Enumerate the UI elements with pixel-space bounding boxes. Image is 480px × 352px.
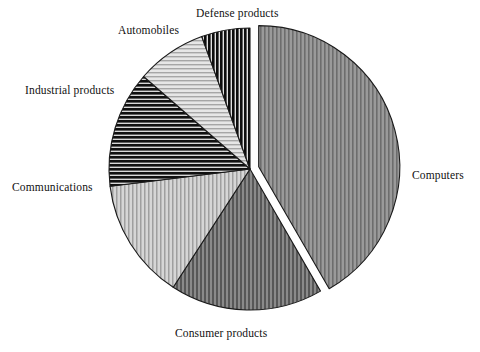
pie-label-defense-products: Defense products xyxy=(196,8,279,20)
pie-slices-group xyxy=(109,26,400,310)
pie-chart-canvas xyxy=(0,0,480,352)
pie-label-computers: Computers xyxy=(412,170,464,182)
pie-chart-figure: Defense products Automobiles Industrial … xyxy=(0,0,480,352)
pie-label-automobiles: Automobiles xyxy=(118,25,179,37)
pie-label-industrial-products: Industrial products xyxy=(25,85,114,97)
pie-label-consumer-products: Consumer products xyxy=(175,328,267,340)
pie-label-communications: Communications xyxy=(12,182,93,194)
